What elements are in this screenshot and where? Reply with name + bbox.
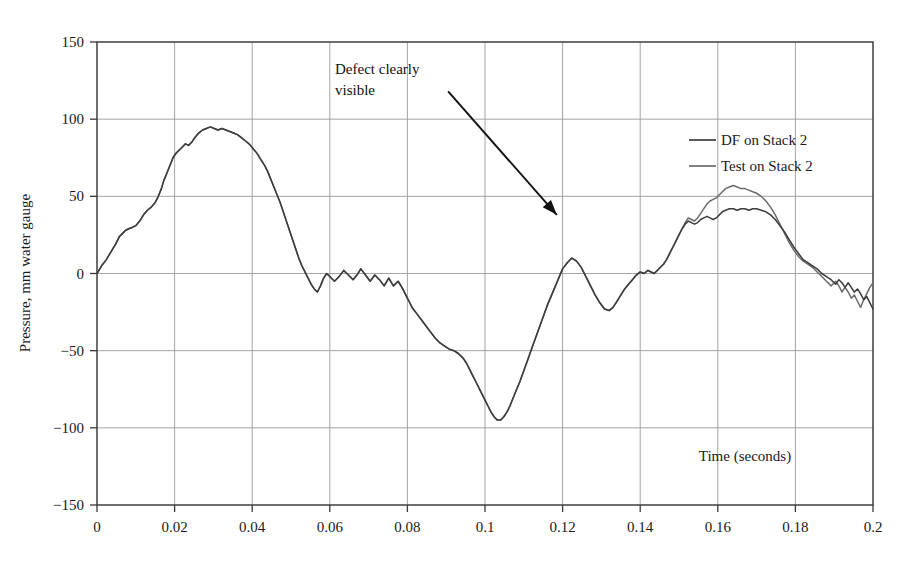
- y-tick-label: −50: [61, 343, 84, 359]
- x-tick-label: 0.2: [864, 519, 883, 535]
- x-tick-label: 0: [93, 519, 101, 535]
- chart-figure: 150100500−50−100−150 00.020.040.060.080.…: [0, 0, 912, 566]
- x-tick-label: 0.06: [317, 519, 344, 535]
- x-tick-label: 0.16: [705, 519, 732, 535]
- y-tick-label: 100: [62, 111, 85, 127]
- x-tick-label: 0.08: [394, 519, 420, 535]
- x-tick-label: 0.12: [549, 519, 575, 535]
- y-tick-label: 0: [77, 266, 85, 282]
- x-tick-label: 0.18: [782, 519, 808, 535]
- annotation-text-line1: Defect clearly: [335, 61, 420, 77]
- x-tick-label: 0.1: [476, 519, 495, 535]
- pressure-time-line-chart: 150100500−50−100−150 00.020.040.060.080.…: [0, 0, 912, 566]
- figure-background: [0, 0, 912, 566]
- x-tick-label: 0.14: [627, 519, 654, 535]
- annotation-text-line2: visible: [335, 82, 375, 98]
- x-axis-title: Time (seconds): [699, 448, 791, 465]
- y-tick-label: −150: [53, 497, 84, 513]
- legend-label-test: Test on Stack 2: [721, 158, 813, 174]
- y-tick-label: 150: [62, 34, 85, 50]
- x-tick-label: 0.04: [239, 519, 266, 535]
- x-tick-label: 0.02: [161, 519, 187, 535]
- y-tick-label: 50: [69, 188, 84, 204]
- legend-label-df: DF on Stack 2: [721, 132, 807, 148]
- y-tick-label: −100: [53, 420, 84, 436]
- y-axis-title: Pressure, mm water gauge: [17, 194, 33, 353]
